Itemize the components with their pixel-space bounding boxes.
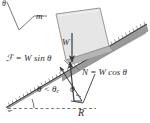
mass-label: m bbox=[36, 12, 43, 21]
normal-force-label: N = W cos θ bbox=[82, 68, 127, 77]
angle-condition-main: θ < θ bbox=[37, 84, 56, 94]
free-body-diagram-figure: θ m W ℱ = W sin θ N = W cos θ θ < θc θ R bbox=[0, 0, 150, 123]
resultant-outer-side bbox=[83, 74, 95, 103]
resultant-label: R bbox=[78, 108, 84, 118]
angle-label-top: θ bbox=[2, 0, 6, 8]
angle-label-triangle: θ bbox=[70, 85, 74, 94]
friction-equation: = W sin θ bbox=[15, 53, 51, 63]
angle-condition-subscript: c bbox=[56, 88, 58, 94]
friction-symbol: ℱ bbox=[6, 53, 13, 63]
friction-label: ℱ = W sin θ bbox=[6, 54, 52, 63]
weight-label: W bbox=[62, 38, 70, 47]
angle-condition-label: θ < θc bbox=[37, 85, 59, 95]
